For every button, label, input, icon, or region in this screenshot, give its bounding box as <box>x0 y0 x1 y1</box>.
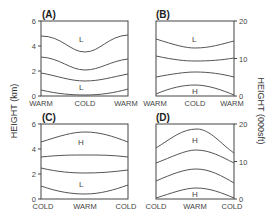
panel-c-left-axis: 6 4 2 0 <box>32 120 41 204</box>
panel-a-left-axis: 6 4 2 0 <box>32 17 41 101</box>
contour <box>156 72 234 77</box>
panel-label-c: (C) <box>42 112 56 123</box>
tick-4: 4 <box>32 145 36 154</box>
x-label: COLD <box>185 99 206 108</box>
contour <box>41 73 128 81</box>
x-label: COLD <box>75 99 96 108</box>
panel-b: (B) 20 10 0 L H WARM COLD WARM <box>143 9 247 108</box>
right-axis-title: HEIGHT (000sft) <box>256 78 266 145</box>
x-label: COLD <box>222 202 243 211</box>
panel-c: (C) 6 4 2 0 H L COLD WARM COLD <box>32 112 137 211</box>
contour <box>41 185 128 194</box>
panel-d: (D) 20 10 0 H H COLD WARM COLD <box>146 112 248 211</box>
contour <box>41 89 128 95</box>
panel-d-right-axis: 20 10 0 <box>234 120 247 204</box>
tick-6: 6 <box>32 120 36 129</box>
x-label: COLD <box>116 202 137 211</box>
panel-label-d: (D) <box>156 112 170 123</box>
x-label: COLD <box>33 202 54 211</box>
panel-c-frame <box>41 124 128 199</box>
tick-20: 20 <box>239 120 247 129</box>
tick-2: 2 <box>32 170 36 179</box>
left-axis-title: HEIGHT (km) <box>9 84 19 138</box>
tick-10: 10 <box>239 55 247 64</box>
tick-2: 2 <box>32 67 36 76</box>
tick-10: 10 <box>239 158 247 167</box>
tick-4: 4 <box>32 42 36 51</box>
tick-20: 20 <box>239 17 247 26</box>
x-label: WARM <box>73 202 96 211</box>
region-label-low: L <box>79 180 84 189</box>
contour <box>41 132 128 142</box>
tick-6: 6 <box>32 17 36 26</box>
region-label-low: L <box>192 35 197 44</box>
region-label-low: L <box>79 35 84 44</box>
x-label: WARM <box>143 99 166 108</box>
region-label-high: H <box>78 138 84 147</box>
panel-a-frame <box>41 21 128 96</box>
contour <box>41 155 128 157</box>
x-label: WARM <box>114 99 137 108</box>
x-label: WARM <box>29 99 52 108</box>
region-label-high: H <box>192 87 198 96</box>
contour <box>156 169 234 183</box>
contour <box>41 168 128 173</box>
panel-a: (A) 6 4 2 0 L L WARM COLD WARM <box>29 9 137 108</box>
contour <box>156 150 234 163</box>
panel-label-a: (A) <box>42 9 56 20</box>
panel-label-b: (B) <box>156 9 170 20</box>
x-label: WARM <box>183 202 206 211</box>
pressure-height-diagram: HEIGHT (km) HEIGHT (000sft) (A) 6 4 2 0 … <box>0 0 278 222</box>
x-label: COLD <box>146 202 167 211</box>
region-label-low: L <box>79 83 84 92</box>
contour <box>41 35 128 52</box>
panel-b-right-axis: 20 10 0 <box>234 17 247 101</box>
region-label-high: H <box>192 190 198 199</box>
contour <box>156 56 234 61</box>
region-label-high: H <box>192 136 198 145</box>
contour <box>41 57 128 70</box>
x-label: WARM <box>220 99 243 108</box>
